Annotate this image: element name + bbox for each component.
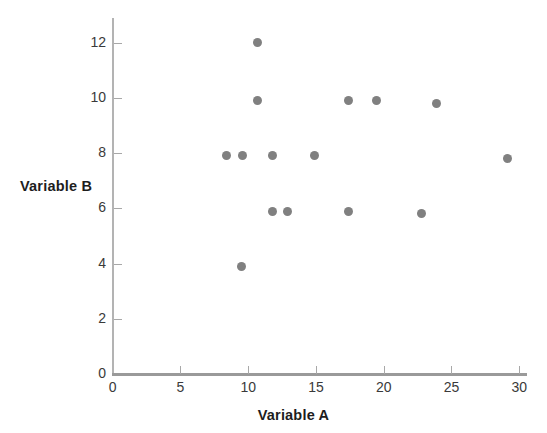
data-point	[222, 151, 231, 160]
data-point	[372, 96, 381, 105]
y-tick-label: 4	[80, 255, 106, 271]
x-tick-label: 30	[504, 379, 534, 395]
y-axis-label: Variable B	[20, 178, 92, 194]
x-tick-label: 5	[165, 379, 195, 395]
data-point	[237, 262, 246, 271]
x-axis-line	[112, 373, 527, 376]
x-tick-label: 15	[301, 379, 331, 395]
data-point	[344, 96, 353, 105]
plot-area: 024681012 051015202530	[0, 0, 547, 433]
data-point	[503, 154, 512, 163]
scatter-plot-figure: 024681012 051015202530 Variable B Variab…	[0, 0, 547, 433]
x-axis-label: Variable A	[0, 407, 547, 423]
data-point	[268, 151, 277, 160]
y-tick-label: 2	[80, 310, 106, 326]
data-point	[238, 151, 247, 160]
data-point	[310, 151, 319, 160]
y-tick-label: 10	[80, 89, 106, 105]
data-point	[253, 38, 262, 47]
x-tick-mark	[248, 366, 249, 374]
x-tick-label: 25	[436, 379, 466, 395]
x-tick-label: 10	[233, 379, 263, 395]
data-point	[432, 99, 441, 108]
y-tick-label: 6	[80, 199, 106, 215]
y-tick-mark	[114, 319, 122, 320]
data-point	[253, 96, 262, 105]
x-tick-mark	[519, 366, 520, 374]
y-tick-label: 12	[80, 34, 106, 50]
x-tick-label: 20	[369, 379, 399, 395]
x-axis-label-text: Variable A	[258, 407, 330, 423]
x-tick-mark	[180, 366, 181, 374]
y-tick-mark	[114, 264, 122, 265]
x-tick-mark	[451, 366, 452, 374]
data-point	[283, 207, 292, 216]
y-tick-mark	[114, 153, 122, 154]
x-tick-mark	[384, 366, 385, 374]
y-tick-mark	[114, 98, 122, 99]
data-point	[417, 209, 426, 218]
y-tick-mark	[114, 43, 122, 44]
y-tick-mark	[114, 208, 122, 209]
x-tick-label: 0	[98, 379, 128, 395]
y-axis-line	[112, 18, 114, 375]
data-point	[344, 207, 353, 216]
y-tick-label: 8	[80, 144, 106, 160]
x-tick-mark	[316, 366, 317, 374]
data-point	[268, 207, 277, 216]
